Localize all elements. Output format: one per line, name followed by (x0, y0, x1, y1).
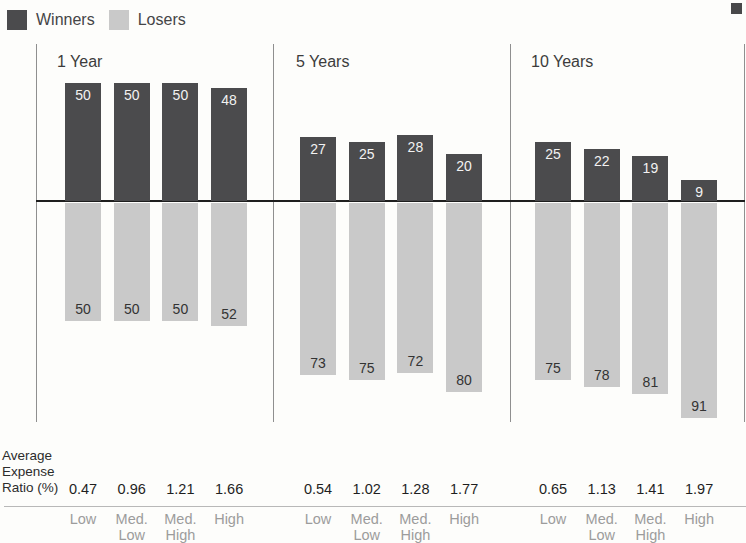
category-label: Low (290, 511, 346, 527)
category-label-line2: Low (574, 527, 630, 543)
category-label-line1: Med. (104, 511, 160, 527)
category-label-line1: Med. (574, 511, 630, 527)
category-label-line1: Low (55, 511, 111, 527)
loser-bar: 81 (632, 203, 668, 394)
winner-value-label: 20 (446, 158, 482, 174)
row-label-line3: Ratio (%) (2, 481, 58, 495)
loser-value-label: 50 (162, 301, 198, 317)
expense-ratio-value: 1.77 (438, 481, 490, 497)
category-label-line1: High (201, 511, 257, 527)
expense-ratio-value: 0.54 (292, 481, 344, 497)
winner-bar: 50 (162, 83, 198, 201)
loser-bar: 75 (535, 203, 571, 380)
winner-bar: 50 (65, 83, 101, 201)
expense-ratio-value: 1.13 (576, 481, 628, 497)
category-label-line2: High (622, 527, 678, 543)
loser-bar: 75 (349, 203, 385, 380)
winner-bar: 27 (300, 137, 336, 201)
winner-value-label: 25 (349, 146, 385, 162)
plot-right-border (744, 44, 745, 422)
winner-bar: 25 (349, 142, 385, 201)
loser-value-label: 50 (65, 301, 101, 317)
loser-bar: 78 (584, 203, 620, 387)
category-divider-line (4, 506, 746, 507)
expense-ratio-value: 1.02 (341, 481, 393, 497)
loser-bar: 73 (300, 203, 336, 375)
winner-value-label: 50 (162, 87, 198, 103)
loser-bar: 91 (681, 203, 717, 418)
category-label: Med.High (387, 511, 443, 543)
category-label-line2: High (387, 527, 443, 543)
loser-value-label: 72 (397, 353, 433, 369)
row-label-line1: Average (2, 449, 52, 463)
winner-value-label: 27 (300, 141, 336, 157)
category-label-line1: High (436, 511, 492, 527)
winner-bar: 48 (211, 88, 247, 201)
loser-bar: 80 (446, 203, 482, 392)
expense-ratio-value: 1.66 (203, 481, 255, 497)
category-label: Med.High (152, 511, 208, 543)
winner-bar: 50 (114, 83, 150, 201)
winner-value-label: 22 (584, 153, 620, 169)
category-label-line1: Low (525, 511, 581, 527)
winner-bar: 19 (632, 156, 668, 201)
winner-bar: 28 (397, 135, 433, 201)
loser-bar: 50 (114, 203, 150, 321)
group-title: 10 Years (531, 53, 593, 71)
expense-ratio-value: 1.28 (389, 481, 441, 497)
loser-bar: 72 (397, 203, 433, 373)
category-label: Med.Low (339, 511, 395, 543)
category-label-line1: Med. (387, 511, 443, 527)
loser-value-label: 52 (211, 306, 247, 322)
loser-value-label: 50 (114, 301, 150, 317)
category-label: Med.Low (104, 511, 160, 543)
winner-value-label: 9 (681, 184, 717, 200)
category-label: High (436, 511, 492, 527)
winner-bar: 20 (446, 154, 482, 201)
loser-bar: 50 (65, 203, 101, 321)
category-label-line1: High (671, 511, 727, 527)
winner-bar: 9 (681, 180, 717, 201)
group-separator-2 (510, 44, 511, 422)
loser-value-label: 78 (584, 367, 620, 383)
winner-value-label: 48 (211, 92, 247, 108)
group-title: 5 Years (296, 53, 349, 71)
winner-value-label: 50 (65, 87, 101, 103)
category-label: High (671, 511, 727, 527)
category-label: Med.Low (574, 511, 630, 543)
expense-ratio-value: 0.96 (106, 481, 158, 497)
loser-bar: 52 (211, 203, 247, 326)
group-separator-1 (273, 44, 274, 422)
expense-ratio-value: 1.41 (624, 481, 676, 497)
category-label: Med.High (622, 511, 678, 543)
category-label-line1: Low (290, 511, 346, 527)
winner-value-label: 25 (535, 146, 571, 162)
expense-ratio-value: 0.65 (527, 481, 579, 497)
category-label: Low (55, 511, 111, 527)
category-label-line1: Med. (152, 511, 208, 527)
expense-ratio-value: 1.97 (673, 481, 725, 497)
category-label-line1: Med. (622, 511, 678, 527)
loser-value-label: 75 (535, 360, 571, 376)
plot-left-border (36, 44, 37, 422)
loser-value-label: 91 (681, 398, 717, 414)
winner-value-label: 50 (114, 87, 150, 103)
expense-ratio-value: 0.47 (57, 481, 109, 497)
category-label-line2: Low (104, 527, 160, 543)
category-label: High (201, 511, 257, 527)
group-title: 1 Year (57, 53, 102, 71)
category-label: Low (525, 511, 581, 527)
category-label-line2: High (152, 527, 208, 543)
loser-value-label: 73 (300, 355, 336, 371)
loser-value-label: 75 (349, 360, 385, 376)
category-label-line2: Low (339, 527, 395, 543)
loser-value-label: 80 (446, 372, 482, 388)
expense-ratio-value: 1.21 (154, 481, 206, 497)
winner-bar: 22 (584, 149, 620, 201)
category-label-line1: Med. (339, 511, 395, 527)
winner-value-label: 28 (397, 139, 433, 155)
winner-bar: 25 (535, 142, 571, 201)
winner-value-label: 19 (632, 160, 668, 176)
loser-bar: 50 (162, 203, 198, 321)
